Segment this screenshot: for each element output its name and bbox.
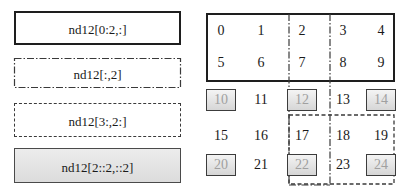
array-cell: 17: [287, 125, 317, 147]
dashdot-label-border: [15, 59, 181, 88]
array-cell: 13: [328, 89, 358, 111]
array-cell: 3: [328, 20, 358, 42]
array-cell: 1: [246, 20, 276, 42]
array-cell: 18: [328, 125, 358, 147]
array-cell: 6: [246, 52, 276, 74]
array-cell-highlighted: 12: [287, 89, 317, 111]
array-cell: 2: [287, 20, 317, 42]
array-cell: 23: [328, 154, 358, 176]
array-cell: 15: [206, 125, 236, 147]
array-cell-highlighted: 22: [287, 154, 317, 176]
array-cell: 21: [246, 154, 276, 176]
array-cell: 9: [366, 52, 396, 74]
array-cell-highlighted: 24: [366, 154, 396, 176]
array-cell: 0: [206, 20, 236, 42]
array-cell-highlighted: 14: [366, 89, 396, 111]
array-cell: 7: [287, 52, 317, 74]
array-cell: 19: [366, 125, 396, 147]
array-cell-highlighted: 10: [206, 89, 236, 111]
array-cell: 11: [246, 89, 276, 111]
array-cell: 4: [366, 20, 396, 42]
array-cell-highlighted: 20: [206, 154, 236, 176]
array-cell: 5: [206, 52, 236, 74]
array-cell: 16: [246, 125, 276, 147]
array-cell: 8: [328, 52, 358, 74]
